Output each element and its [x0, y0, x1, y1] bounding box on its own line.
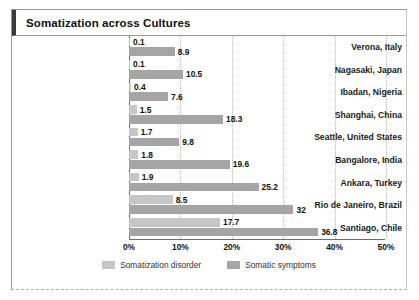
bar-value-label: 0.4: [134, 82, 146, 92]
value-axis-ticks: 0%10%20%30%40%50%: [129, 242, 406, 256]
bar[interactable]: [129, 83, 131, 92]
chart-row: Santiago, Chile17.736.8: [12, 216, 406, 239]
bar[interactable]: [129, 70, 183, 79]
bar-item[interactable]: 10.5: [129, 70, 202, 79]
legend-item[interactable]: Somatization disorder: [102, 260, 201, 270]
bar[interactable]: [129, 173, 139, 182]
bar-value-label: 7.6: [171, 92, 183, 102]
bar[interactable]: [129, 138, 179, 147]
bar-item[interactable]: 1.7: [129, 128, 152, 137]
bar-item[interactable]: 0.4: [129, 83, 146, 92]
bar-rows: Verona, Italy0.18.9Nagasaki, Japan0.110.…: [12, 36, 406, 239]
bar-value-label: 9.8: [182, 137, 194, 147]
bar-value-label: 17.7: [223, 217, 239, 227]
bar-group: 1.79.8: [129, 126, 406, 149]
plot-area: Verona, Italy0.18.9Nagasaki, Japan0.110.…: [12, 36, 406, 290]
bar[interactable]: [129, 128, 138, 137]
bar-group: 0.47.6: [129, 81, 406, 104]
bar-value-label: 32: [296, 205, 305, 215]
bar-item[interactable]: 1.9: [129, 173, 153, 182]
bar[interactable]: [129, 205, 293, 214]
bar-item[interactable]: 36.8: [129, 228, 337, 237]
chart-row: Seattle, United States1.79.8: [12, 126, 406, 149]
bar-value-label: 1.5: [140, 105, 152, 115]
bar-item[interactable]: 9.8: [129, 138, 194, 147]
bar[interactable]: [129, 105, 137, 114]
axis-tick-label: 10%: [172, 242, 189, 252]
bar[interactable]: [129, 150, 138, 159]
legend-swatch-icon: [102, 261, 115, 269]
chart-row: Bangalore, India1.819.6: [12, 149, 406, 172]
bar[interactable]: [129, 38, 130, 47]
bar-group: 0.18.9: [129, 36, 406, 59]
bar-value-label: 8.5: [176, 195, 188, 205]
bar-value-label: 8.9: [178, 47, 190, 57]
bar-value-label: 0.1: [133, 37, 145, 47]
bar-item[interactable]: 32: [129, 205, 306, 214]
bar[interactable]: [129, 195, 173, 204]
bar[interactable]: [129, 92, 168, 101]
bar-item[interactable]: 18.3: [129, 115, 242, 124]
bar-item[interactable]: 0.1: [129, 60, 145, 69]
bar[interactable]: [129, 160, 230, 169]
axis-tick-label: 30%: [275, 242, 292, 252]
chart-row: Ankara, Turkey1.925.2: [12, 171, 406, 194]
bar-item[interactable]: 19.6: [129, 160, 249, 169]
bar-group: 1.925.2: [129, 171, 406, 194]
bar[interactable]: [129, 115, 223, 124]
legend-item[interactable]: Somatic symptoms: [227, 260, 316, 270]
legend-swatch-icon: [227, 261, 240, 269]
bar-value-label: 10.5: [186, 69, 202, 79]
bar[interactable]: [129, 60, 130, 69]
bar[interactable]: [129, 183, 259, 192]
bar[interactable]: [129, 218, 220, 227]
chart-row: Shanghai, China1.518.3: [12, 104, 406, 127]
bar-item[interactable]: 0.1: [129, 38, 145, 47]
chart-row: Verona, Italy0.18.9: [12, 36, 406, 59]
bar-item[interactable]: 1.8: [129, 150, 153, 159]
bar[interactable]: [129, 47, 175, 56]
value-axis-line: [129, 239, 385, 240]
axis-tick-label: 40%: [326, 242, 343, 252]
chart-row: Rio de Janeiro, Brazil8.532: [12, 194, 406, 217]
bar-item[interactable]: 25.2: [129, 183, 278, 192]
legend-label: Somatic symptoms: [245, 260, 316, 270]
bar-value-label: 0.1: [133, 59, 145, 69]
bar-item[interactable]: 17.7: [129, 218, 239, 227]
bar-group: 1.518.3: [129, 104, 406, 127]
axis-tick-label: 0%: [123, 242, 135, 252]
bar-value-label: 1.8: [141, 150, 153, 160]
bar-item[interactable]: 8.9: [129, 47, 189, 56]
bar-group: 17.736.8: [129, 216, 406, 239]
bar-group: 0.110.5: [129, 59, 406, 82]
axis-tick-label: 50%: [378, 242, 395, 252]
axis-tick-label: 20%: [223, 242, 240, 252]
bar-value-label: 25.2: [262, 182, 278, 192]
chart-row: Ibadan, Nigeria0.47.6: [12, 81, 406, 104]
legend-label: Somatization disorder: [120, 260, 201, 270]
bar-group: 8.532: [129, 194, 406, 217]
bar-item[interactable]: 7.6: [129, 92, 183, 101]
bar-value-label: 36.8: [321, 227, 337, 237]
bar-item[interactable]: 8.5: [129, 195, 187, 204]
chart-figure: Somatization across Cultures Verona, Ita…: [11, 9, 407, 290]
bar-value-label: 18.3: [226, 114, 242, 124]
bar-group: 1.819.6: [129, 149, 406, 172]
page-title: Somatization across Cultures: [26, 17, 190, 29]
bar-value-label: 19.6: [233, 159, 249, 169]
bar-value-label: 1.7: [141, 127, 153, 137]
bar-item[interactable]: 1.5: [129, 105, 151, 114]
chart-row: Nagasaki, Japan0.110.5: [12, 59, 406, 82]
chart-title-bar: Somatization across Cultures: [12, 10, 406, 36]
chart-legend: Somatization disorderSomatic symptoms: [12, 260, 406, 270]
bar-value-label: 1.9: [142, 172, 154, 182]
bar[interactable]: [129, 228, 318, 237]
